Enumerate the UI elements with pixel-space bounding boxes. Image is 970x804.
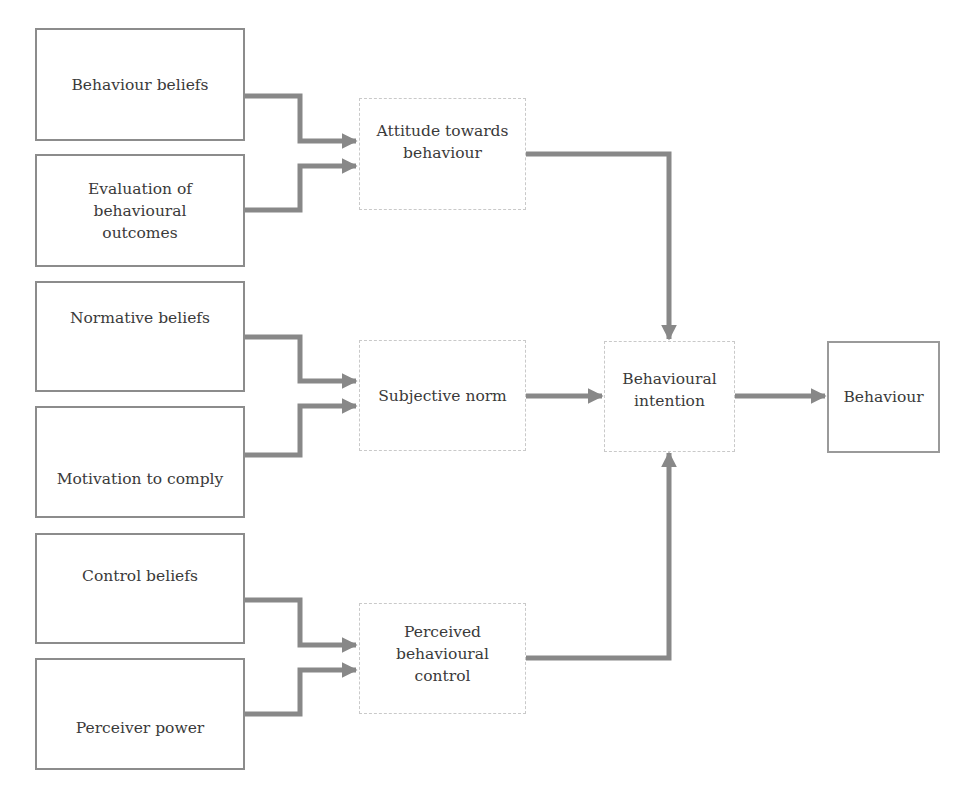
node-label: Subjective norm: [378, 385, 507, 407]
node-attitude: Attitude towards behaviour: [359, 98, 526, 210]
node-label: Normative beliefs: [70, 307, 210, 329]
node-normative-beliefs: Normative beliefs: [35, 281, 245, 392]
node-label: Perceived behavioural control: [388, 621, 498, 687]
node-label: Behavioural intention: [615, 368, 725, 412]
edge-motivation-to-subjective-norm: [244, 406, 356, 455]
edge-normative-to-subjective-norm: [244, 337, 356, 381]
edge-attitude-to-intention: [525, 154, 669, 339]
edge-evaluation-to-attitude: [244, 166, 356, 210]
edge-behaviour-beliefs-to-attitude: [244, 96, 356, 141]
edge-pbc-to-intention: [525, 453, 669, 658]
edge-control-beliefs-to-pbc: [244, 600, 356, 645]
node-label: Behaviour: [843, 386, 923, 408]
node-control-beliefs: Control beliefs: [35, 533, 245, 644]
edge-perceiver-power-to-pbc: [244, 670, 356, 714]
node-label: Motivation to comply: [57, 468, 224, 490]
node-behaviour: Behaviour: [827, 341, 940, 453]
node-subjective-norm: Subjective norm: [359, 340, 526, 451]
node-behavioural-intention: Behavioural intention: [604, 341, 735, 452]
node-evaluation-outcomes: Evaluation of behavioural outcomes: [35, 154, 245, 267]
node-pbc: Perceived behavioural control: [359, 603, 526, 714]
node-label: Evaluation of behavioural outcomes: [75, 178, 205, 244]
node-label: Perceiver power: [76, 717, 205, 739]
node-label: Attitude towards behaviour: [373, 120, 513, 164]
node-motivation-comply: Motivation to comply: [35, 406, 245, 518]
node-behaviour-beliefs: Behaviour beliefs: [35, 28, 245, 141]
node-perceiver-power: Perceiver power: [35, 658, 245, 770]
node-label: Behaviour beliefs: [71, 74, 208, 96]
node-label: Control beliefs: [82, 565, 198, 587]
